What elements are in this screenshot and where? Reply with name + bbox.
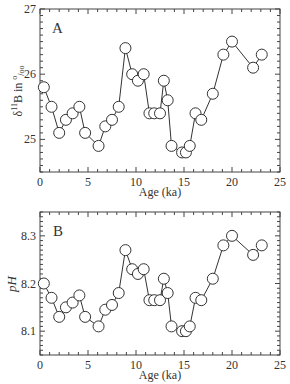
panel-label: A [52, 20, 63, 36]
data-point [107, 114, 118, 125]
data-markers [38, 36, 267, 158]
axis-ticks [40, 9, 280, 172]
y-axis-label: pH [4, 275, 19, 293]
data-point [38, 82, 49, 93]
data-point [74, 290, 85, 301]
axis-ticks [40, 212, 280, 355]
panel-b: 8.18.28.3 0510152025 B Age (ka) pH [4, 212, 286, 382]
svg-text:8.2: 8.2 [21, 277, 36, 291]
data-line [44, 42, 262, 153]
svg-text:0: 0 [37, 175, 43, 189]
data-point [218, 49, 229, 60]
data-point [107, 299, 118, 310]
data-point [138, 69, 149, 80]
y-axis-label: δ11B in o/oo [10, 66, 26, 117]
data-point [155, 108, 166, 119]
data-point [120, 245, 131, 256]
svg-text:0: 0 [37, 358, 43, 372]
data-point [218, 240, 229, 251]
data-point [158, 75, 169, 86]
data-point [38, 278, 49, 289]
data-point [196, 295, 207, 306]
data-point [207, 88, 218, 99]
data-point [93, 140, 104, 151]
svg-text:25: 25 [24, 132, 36, 146]
data-point [54, 311, 65, 322]
data-markers [38, 230, 267, 336]
panel-label: B [53, 223, 63, 239]
svg-text:20: 20 [226, 175, 238, 189]
data-point [113, 101, 124, 112]
data-point [227, 230, 238, 241]
data-point [184, 140, 195, 151]
data-point [196, 114, 207, 125]
data-point [120, 43, 131, 54]
y-tick-labels: 8.18.28.3 [21, 229, 36, 338]
plot-frame [40, 212, 280, 355]
panel-a: 252627 0510152025 A Age (ka) δ11B in o/o… [10, 2, 286, 199]
svg-text:27: 27 [24, 2, 36, 16]
data-point [46, 101, 57, 112]
svg-text:8.3: 8.3 [21, 229, 36, 243]
data-point [166, 140, 177, 151]
x-axis-label: Age (ka) [139, 368, 181, 382]
data-point [74, 101, 85, 112]
svg-text:25: 25 [274, 358, 286, 372]
data-point [227, 36, 238, 47]
data-line [44, 236, 262, 331]
data-point [113, 288, 124, 299]
svg-text:8.1: 8.1 [21, 324, 36, 338]
svg-text:20: 20 [226, 358, 238, 372]
data-point [80, 311, 91, 322]
data-point [80, 127, 91, 138]
data-point [256, 49, 267, 60]
data-point [158, 273, 169, 284]
data-point [184, 321, 195, 332]
data-point [166, 321, 177, 332]
data-point [256, 240, 267, 251]
x-axis-label: Age (ka) [139, 185, 181, 199]
data-point [138, 264, 149, 275]
data-point [54, 127, 65, 138]
data-point [162, 288, 173, 299]
figure: 252627 0510152025 A Age (ka) δ11B in o/o… [0, 0, 290, 384]
svg-text:5: 5 [85, 358, 91, 372]
data-point [248, 249, 259, 260]
data-point [248, 62, 259, 73]
svg-text:5: 5 [85, 175, 91, 189]
data-point [162, 95, 173, 106]
data-point [207, 273, 218, 284]
data-point [46, 292, 57, 303]
data-point [93, 321, 104, 332]
svg-text:25: 25 [274, 175, 286, 189]
plot-frame [40, 9, 280, 172]
